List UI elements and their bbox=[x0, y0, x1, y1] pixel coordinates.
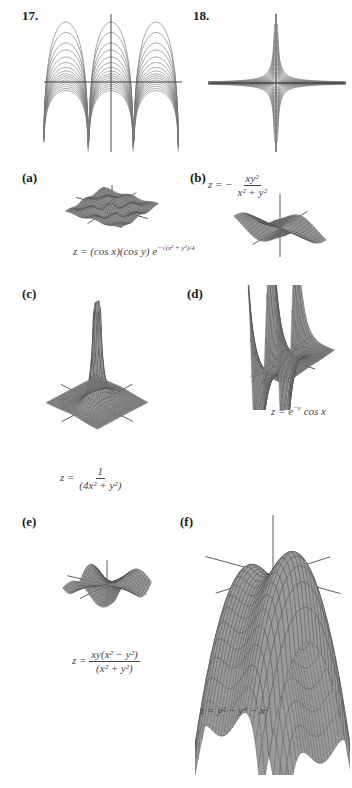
formula-e-denominator: (x² + y²) bbox=[94, 662, 135, 675]
exercise-17-label: 17. bbox=[22, 8, 38, 24]
contour-line bbox=[208, 84, 275, 126]
formula-b: z = − xy²x² + y² bbox=[208, 172, 269, 199]
contour-line bbox=[208, 40, 275, 82]
contour-plot-18 bbox=[208, 12, 346, 154]
formula-b-denominator: x² + y² bbox=[235, 186, 268, 199]
panel-a-label: (a) bbox=[22, 170, 37, 186]
formula-e-numerator: xy(x² − y²) bbox=[89, 648, 139, 662]
formula-c-denominator: (4x² + y²) bbox=[77, 479, 123, 492]
surface-plot-a bbox=[40, 172, 190, 242]
formula-a-text: z = (cos x)(cos y) e bbox=[73, 245, 157, 257]
contour-line bbox=[134, 22, 178, 135]
surface-plot-f bbox=[195, 515, 350, 775]
contour-line bbox=[208, 84, 275, 142]
contour-plot-17 bbox=[40, 12, 186, 154]
formula-d-tail: cos x bbox=[301, 405, 326, 417]
contour-line bbox=[208, 24, 275, 81]
contour-line bbox=[278, 32, 346, 82]
formula-c-numerator: 1 bbox=[96, 465, 106, 479]
panel-b-label: (b) bbox=[190, 170, 206, 186]
surface-plot-c bbox=[35, 285, 165, 457]
formula-b-lhs: z = − bbox=[208, 178, 233, 190]
contour-line bbox=[278, 84, 346, 142]
contour-line bbox=[208, 84, 275, 134]
contour-line bbox=[278, 84, 346, 134]
contour-line bbox=[134, 76, 178, 143]
contour-line bbox=[208, 84, 275, 120]
formula-d-exponent: −y bbox=[293, 404, 301, 412]
formula-b-numerator: xy² bbox=[244, 172, 261, 186]
formula-c-lhs: z = bbox=[60, 471, 74, 483]
formula-d: z = e−y cos x bbox=[271, 404, 326, 417]
contour-line bbox=[208, 47, 275, 82]
formula-c: z = 1(4x² + y²) bbox=[60, 465, 123, 492]
surface-plot-d bbox=[200, 285, 350, 410]
contour-line bbox=[278, 24, 346, 81]
contour-line bbox=[44, 22, 87, 135]
formula-d-text: z = e bbox=[271, 405, 293, 417]
formula-f-text: z = y² − y⁴ − x² bbox=[200, 704, 268, 716]
formula-e-lhs: z = bbox=[72, 654, 86, 666]
formula-f: z = y² − y⁴ − x² bbox=[200, 704, 268, 716]
surface-plot-e bbox=[35, 515, 185, 650]
formula-e: z = xy(x² − y²)(x² + y²) bbox=[72, 648, 140, 675]
formula-a: z = (cos x)(cos y) e−√(x² + y²)/4 bbox=[73, 244, 194, 257]
contour-line bbox=[208, 32, 275, 82]
exercise-18-label: 18. bbox=[193, 8, 209, 24]
formula-a-exponent: −√(x² + y²)/4 bbox=[157, 244, 194, 252]
